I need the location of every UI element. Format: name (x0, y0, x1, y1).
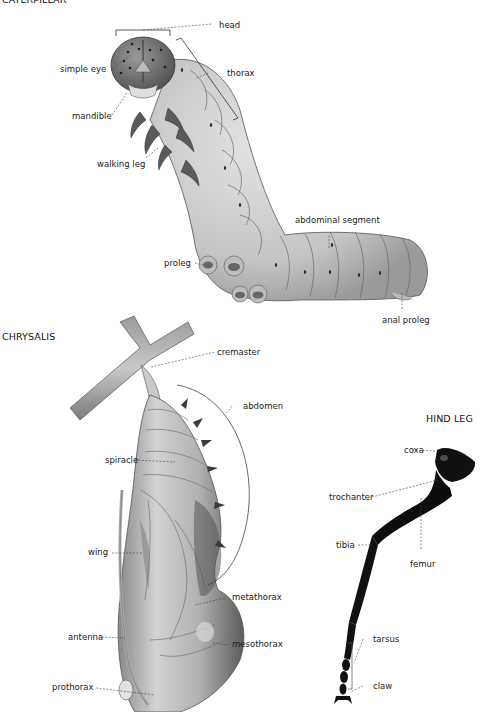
label-abdominal-segment: abdominal segment (295, 216, 380, 225)
label-metathorax: metathorax (232, 593, 282, 602)
label-walking-leg: walking leg (97, 160, 145, 169)
label-proleg: proleg (164, 259, 191, 268)
caterpillar-drawing (111, 30, 427, 303)
label-spiracle: spiracle (105, 456, 138, 465)
label-anal-proleg: anal proleg (382, 316, 430, 325)
label-tibia: tibia (336, 541, 355, 550)
caterpillar-title: CATERPILLAR (2, 0, 66, 5)
label-claw: claw (373, 682, 392, 691)
label-simple-eye: simple eye (60, 65, 106, 74)
label-trochanter: trochanter (329, 493, 374, 502)
label-wing: wing (88, 548, 108, 557)
label-prothorax: prothorax (52, 683, 94, 692)
label-antenna: antenna (68, 633, 103, 642)
label-mandible: mandible (72, 112, 112, 121)
label-coxa: coxa (404, 446, 424, 455)
label-mesothorax: mesothorax (232, 640, 283, 649)
chrysalis-drawing (70, 316, 249, 712)
hind-leg-title: HIND LEG (426, 414, 473, 424)
label-thorax: thorax (227, 69, 255, 78)
label-cremaster: cremaster (217, 348, 260, 357)
label-abdomen: abdomen (243, 402, 283, 411)
label-femur: femur (410, 560, 435, 569)
chrysalis-title: CHRYSALIS (2, 332, 55, 342)
hind-leg-drawing (334, 448, 475, 704)
label-tarsus: tarsus (373, 635, 399, 644)
label-head: head (219, 21, 240, 30)
